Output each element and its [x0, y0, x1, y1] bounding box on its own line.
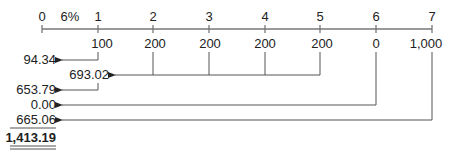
period-label-5: 5: [316, 10, 323, 24]
period-label-0: 0: [38, 10, 45, 24]
cash-flow-3: 200: [199, 37, 221, 51]
period-label-7: 7: [428, 10, 435, 24]
pv-year1: 94.34: [23, 53, 56, 67]
period-label-4: 4: [261, 10, 268, 24]
cash-flow-7: 1,000: [410, 37, 443, 51]
pv-total: 1,413.19: [5, 131, 56, 145]
period-label-2: 2: [149, 10, 156, 24]
pv-year6: 0.00: [31, 98, 56, 112]
period-label-3: 3: [205, 10, 212, 24]
cash-flow-5: 200: [311, 37, 333, 51]
rate-label: 6%: [61, 10, 80, 24]
pv-annuity-discounted: 653.79: [16, 83, 56, 97]
period-label-6: 6: [372, 10, 379, 24]
cash-flow-2: 200: [144, 37, 166, 51]
timeline-axis: [42, 25, 432, 33]
pv-year7: 665.06: [16, 113, 56, 127]
arrow-pv-year1: [62, 52, 98, 60]
arrow-annuity-discounted: [62, 83, 98, 90]
cash-flow-1: 100: [91, 37, 113, 51]
period-label-1: 1: [94, 10, 101, 24]
bracket-years2to5: [153, 52, 320, 75]
cash-flow-4: 200: [254, 37, 276, 51]
pv-annuity: 693.02: [69, 68, 109, 82]
cash-flow-6: 0: [372, 37, 379, 51]
arrow-pv-year6: [62, 52, 376, 105]
